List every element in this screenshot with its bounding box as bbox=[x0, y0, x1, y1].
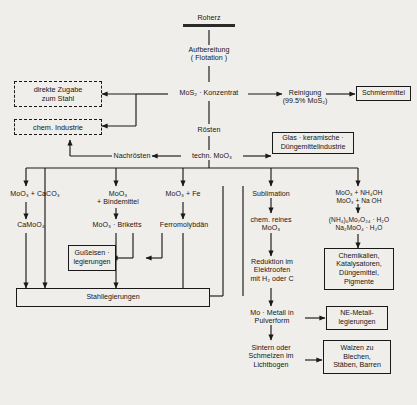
node-ammonium-natrium-molybdat: (NH₄)₆Mo₇O₂₄ · H₂O Na₂MoO₄ · H₂O bbox=[310, 216, 408, 232]
node-roesten: Rösten bbox=[188, 126, 230, 134]
node-mos2-konzentrat: MoS₂ · Konzentrat bbox=[166, 89, 252, 97]
node-moo3-fe: MoO₃ + Fe bbox=[152, 190, 214, 198]
node-reinigung: Reinigung (99.5% MoS₂) bbox=[280, 89, 330, 106]
box-gusseisenlegierungen: Gußeisen · legierungen bbox=[68, 245, 116, 271]
node-chem-reines-moo3: chem. reines MoO₃ bbox=[243, 216, 299, 233]
node-ferromolybdaen: Ferromolybdän bbox=[149, 221, 219, 229]
box-chemikalien-katalysatoren: Chemikalien, Katalysatoren, Düngemittel,… bbox=[324, 248, 394, 290]
box-chem-industrie: chem. Industrie bbox=[14, 119, 102, 135]
box-direkte-zugabe-zum-stahl: direkte Zugabe zum Stahl bbox=[14, 81, 102, 107]
node-techn-moo3: techn. MoO₃ bbox=[180, 152, 244, 160]
node-aufbereitung: Aufbereitung ( Flotation ) bbox=[168, 46, 250, 63]
box-schmiermittel: Schmiermittel bbox=[356, 86, 411, 101]
node-sintern-schmelzen: Sintern oder Schmelzen im Lichtbogen bbox=[235, 344, 307, 369]
node-camoo4: CaMoO₄ bbox=[1, 221, 61, 229]
roherz-underline-bar bbox=[183, 24, 235, 27]
box-ne-metalllegierungen: NE-Metall- legierungen bbox=[326, 306, 388, 330]
node-moo3-caco3: MoO₃ + CaCO₃ bbox=[0, 190, 70, 198]
box-stahllegierungen: Stahllegierungen bbox=[16, 288, 210, 307]
node-sublimation: Sublimation bbox=[240, 190, 302, 198]
node-roherz: Roherz bbox=[177, 14, 241, 22]
box-walzen-bleche-stangen: Walzen zu Blechen, Stäben, Barren bbox=[323, 340, 391, 374]
node-reduktion-elektroofen: Reduktion im Elektroofen mit H₂ oder C bbox=[241, 258, 303, 283]
node-moo3-bindemittel: MoO₃ + Bindemittel bbox=[86, 190, 150, 207]
box-glas-keramische-duengemittelindustrie: Glas · keramische · Düngemittelindustrie bbox=[272, 132, 354, 154]
node-nachroesten: Nachrösten bbox=[110, 152, 154, 160]
node-moo3-briketts: MoO₃ · Briketts bbox=[82, 221, 152, 229]
node-moo3-nh4oh-naoh: MoO₃ + NH₄OH MoO₃ + Na OH bbox=[313, 189, 405, 205]
flowchart-canvas: Roherz Aufbereitung ( Flotation ) MoS₂ ·… bbox=[0, 0, 417, 405]
node-mo-metall-pulverform: Mo · Metall in Pulverform bbox=[238, 309, 306, 326]
